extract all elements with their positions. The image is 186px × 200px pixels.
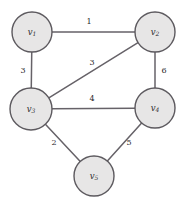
graph-diagram: v1v2v3v4v5 1336425	[0, 0, 186, 200]
edge-weight-v1-v3: 3	[20, 66, 25, 75]
edge-v3-v4	[52, 108, 135, 109]
graph-canvas: v1v2v3v4v5 1336425	[0, 0, 186, 200]
node-v3: v3	[10, 88, 52, 130]
edge-weight-v4-v5: 5	[126, 138, 131, 147]
node-v2: v2	[135, 12, 175, 52]
node-v4: v4	[135, 88, 175, 128]
node-v1: v1	[12, 12, 52, 52]
edge-weight-v3-v5: 2	[51, 138, 56, 147]
edge-v3-v2	[49, 43, 138, 98]
nodes-layer: v1v2v3v4v5	[10, 12, 175, 196]
edge-weight-v3-v2: 3	[89, 58, 94, 67]
edge-weight-v2-v4: 6	[161, 66, 166, 75]
edge-weight-v1-v2: 1	[86, 17, 91, 26]
edge-v4-v5	[107, 123, 141, 161]
edge-weight-v3-v4: 4	[89, 94, 94, 103]
node-v5: v5	[74, 156, 114, 196]
